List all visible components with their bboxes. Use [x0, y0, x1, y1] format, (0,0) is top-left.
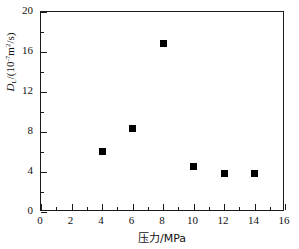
y-axis-tick-label: 8: [0, 124, 33, 136]
x-axis-minor-tick: [239, 207, 240, 210]
y-axis-minor-tick: [41, 112, 44, 113]
x-axis-tick: [194, 204, 195, 210]
y-axis-tick-label: 16: [0, 44, 33, 56]
x-axis-tick-label: 14: [242, 214, 266, 226]
y-axis-tick: [41, 12, 47, 13]
x-axis-minor-tick: [87, 207, 88, 210]
data-point-marker: [129, 125, 136, 132]
y-axis-tick-label: 12: [0, 84, 33, 96]
x-axis-tick: [72, 204, 73, 210]
y-axis-tick: [41, 52, 47, 53]
y-axis-subscript: L: [10, 79, 18, 83]
x-axis-minor-tick: [209, 207, 210, 210]
x-axis-tick-label: 2: [59, 214, 83, 226]
x-axis-tick-label: 6: [120, 214, 144, 226]
x-axis-tick: [224, 204, 225, 210]
x-axis-tick: [163, 204, 164, 210]
y-axis-tick-label: 0: [0, 204, 33, 216]
x-axis-tick-label: 8: [150, 214, 174, 226]
y-axis-exponent: -7: [4, 56, 12, 62]
x-axis-tick-label: 10: [181, 214, 205, 226]
x-axis-tick: [255, 204, 256, 210]
data-point-marker: [221, 170, 228, 177]
x-axis-tick: [41, 204, 42, 210]
data-point-marker: [160, 40, 167, 47]
y-axis-unit-tail: /s): [4, 33, 16, 44]
x-axis-title: 压力/MPa: [40, 229, 284, 245]
plot-area: [40, 11, 284, 211]
y-axis-tick: [41, 92, 47, 93]
x-axis-minor-tick: [178, 207, 179, 210]
x-axis-tick-label: 4: [89, 214, 113, 226]
x-axis-tick-label: 16: [272, 214, 296, 226]
y-axis-tick-label: 20: [0, 4, 33, 16]
y-axis-minor-tick: [41, 192, 44, 193]
x-axis-tick: [285, 204, 286, 210]
x-axis-minor-tick: [117, 207, 118, 210]
data-point-marker: [190, 163, 197, 170]
data-point-marker: [251, 170, 258, 177]
y-axis-tick: [41, 172, 47, 173]
y-axis-tick: [41, 132, 47, 133]
x-axis-tick: [102, 204, 103, 210]
y-axis-tick: [41, 212, 47, 213]
data-point-marker: [99, 148, 106, 155]
x-axis-minor-tick: [56, 207, 57, 210]
x-axis-tick-label: 12: [211, 214, 235, 226]
y-axis-unit-prefix: /(10: [4, 61, 16, 79]
x-axis-minor-tick: [270, 207, 271, 210]
chart-figure: DL/(10-7m2/s) 压力/MPa 0246810121416048121…: [0, 0, 299, 249]
y-axis-title: DL/(10-7m2/s): [4, 2, 16, 122]
x-axis-tick: [133, 204, 134, 210]
y-axis-tick-label: 4: [0, 164, 33, 176]
y-axis-minor-tick: [41, 72, 44, 73]
y-axis-minor-tick: [41, 32, 44, 33]
x-axis-minor-tick: [148, 207, 149, 210]
y-axis-minor-tick: [41, 152, 44, 153]
